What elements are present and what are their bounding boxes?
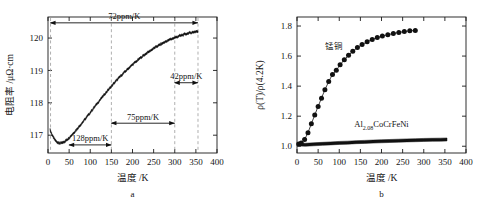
data-point-manganin <box>365 39 370 44</box>
x-tick-label: 50 <box>314 157 324 167</box>
x-tick-label: 400 <box>459 157 473 167</box>
panel-a-svg: 050100150200250300350400117118119120温度 /… <box>0 0 248 206</box>
data-point-manganin <box>342 57 347 62</box>
data-point-manganin <box>319 96 324 101</box>
y-tick-label: 1.4 <box>281 81 293 91</box>
data-point-manganin <box>413 28 418 33</box>
data-point-manganin <box>350 49 355 54</box>
x-tick-label: 200 <box>375 157 389 167</box>
y-tick-label: 117 <box>30 130 44 140</box>
data-point-manganin <box>305 130 310 135</box>
x-tick-label: 350 <box>438 157 452 167</box>
x-tick-label: 150 <box>105 157 119 167</box>
data-point-manganin <box>334 68 339 73</box>
y-tick-label: 1.2 <box>281 111 292 121</box>
x-tick-label: 100 <box>84 157 98 167</box>
annotation-label: 128ppm/K <box>72 133 109 143</box>
x-tick-label: 250 <box>396 157 410 167</box>
data-point-manganin <box>375 35 380 40</box>
y-tick-label: 119 <box>30 66 44 76</box>
y-tick-label: 1.8 <box>281 21 293 31</box>
x-tick-label: 200 <box>126 157 140 167</box>
y-tick-label: 118 <box>30 98 44 108</box>
x-tick-label: 300 <box>168 157 182 167</box>
data-point-manganin <box>312 112 317 117</box>
data-point-manganin <box>302 137 307 142</box>
x-tick-label: 0 <box>295 157 300 167</box>
x-tick-label: 0 <box>46 157 51 167</box>
data-point-manganin <box>338 62 343 67</box>
x-tick-label: 50 <box>65 157 75 167</box>
data-point-manganin <box>402 29 407 34</box>
y-axis-title-group: ρ(T)/ρ(4.2K) <box>255 60 266 109</box>
x-axis-title: 温度 /K <box>117 172 149 183</box>
x-axis-title: 温度 /K <box>366 172 398 183</box>
y-tick-label: 120 <box>30 33 44 43</box>
data-point-manganin <box>396 30 401 35</box>
series-label-hea-sub: 2.08 <box>363 125 374 131</box>
figure-container: 050100150200250300350400117118119120温度 /… <box>0 0 497 206</box>
data-point-manganin <box>326 79 331 84</box>
data-point-manganin <box>322 87 327 92</box>
data-point-manganin <box>330 72 335 77</box>
data-point-manganin <box>346 53 351 58</box>
x-tick-label: 100 <box>333 157 347 167</box>
data-point-manganin <box>380 34 385 39</box>
data-point-manganin <box>385 32 390 37</box>
y-axis-title: 电阻率 /μΩ·cm <box>4 53 15 116</box>
series-label-hea-tail: CoCrFeNi <box>373 119 409 129</box>
data-point-manganin <box>370 37 375 42</box>
y-tick-label: 1.0 <box>281 141 293 151</box>
data-point-manganin <box>316 104 321 109</box>
panel-letter-b: b <box>379 189 384 199</box>
series-label-hea: Al2.08CoCrFeNi <box>354 119 409 130</box>
data-point-manganin <box>309 121 314 126</box>
data-point-manganin <box>355 45 360 50</box>
data-point-manganin <box>360 42 365 47</box>
x-tick-label: 400 <box>210 157 224 167</box>
x-tick-label: 300 <box>417 157 431 167</box>
panel-letter-a: a <box>131 189 135 199</box>
y-axis-title: ρ(T)/ρ(4.2K) <box>255 60 266 109</box>
x-tick-label: 250 <box>147 157 161 167</box>
annotation-label: 42ppm/K <box>170 71 203 81</box>
panel-a: 050100150200250300350400117118119120温度 /… <box>0 0 248 206</box>
annotation-label: 75ppm/K <box>127 112 160 122</box>
data-trace-resistivity <box>50 30 198 145</box>
y-tick-label: 1.6 <box>281 51 293 61</box>
panel-b-svg: 0501001502002503003504001.01.21.41.61.8温… <box>249 0 497 206</box>
x-tick-label: 350 <box>189 157 203 167</box>
annotation-label: 72ppm/K <box>108 11 141 21</box>
data-point-manganin <box>407 28 412 33</box>
panel-b: 0501001502002503003504001.01.21.41.61.8温… <box>249 0 497 206</box>
data-point-manganin <box>391 31 396 36</box>
series-label-manganin: 锰铜 <box>325 41 343 51</box>
x-tick-label: 150 <box>354 157 368 167</box>
series-band-hea <box>299 138 447 146</box>
